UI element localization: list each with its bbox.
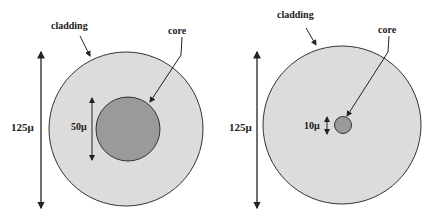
core-label: core: [168, 26, 186, 36]
fiber-cross-section-diagram: cladding core 125μ 50μ cladding core 125…: [0, 0, 432, 220]
single-mode-fiber-figure: [257, 28, 421, 208]
core-diameter-label: 50μ: [71, 122, 87, 132]
cladding-label: cladding: [51, 21, 88, 31]
cladding-diameter-label: 125μ: [229, 122, 252, 133]
multimode-fiber-figure: [41, 36, 203, 208]
core-circle: [335, 117, 352, 134]
diagram-graphics: [0, 0, 432, 220]
core-circle: [96, 97, 160, 161]
core-diameter-label: 10μ: [304, 121, 320, 131]
cladding-leader-arrow: [80, 36, 90, 56]
cladding-leader-arrow: [306, 28, 316, 45]
cladding-label: cladding: [277, 10, 314, 20]
core-label: core: [378, 25, 396, 35]
cladding-diameter-label: 125μ: [11, 122, 34, 133]
